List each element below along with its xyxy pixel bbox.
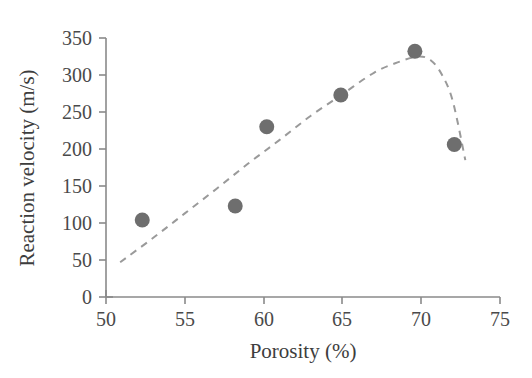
scatter-plot: 0 50 100 150 200 250 300 350 50 55 60 65…: [0, 0, 532, 378]
y-tick-label-250: 250: [62, 101, 92, 123]
data-point: [447, 137, 462, 152]
y-tick-label-150: 150: [62, 175, 92, 197]
x-tick-label-55: 55: [175, 308, 195, 330]
x-tick-label-60: 60: [254, 308, 274, 330]
y-axis-tick-labels: 0 50 100 150 200 250 300 350: [62, 27, 92, 308]
chart-figure: 0 50 100 150 200 250 300 350 50 55 60 65…: [0, 0, 532, 378]
x-tick-label-70: 70: [411, 308, 431, 330]
fitted-trend-curve: [120, 56, 465, 262]
data-point: [135, 213, 150, 228]
data-point: [333, 87, 348, 102]
y-tick-label-0: 0: [82, 286, 92, 308]
y-tick-label-300: 300: [62, 64, 92, 86]
x-tick-label-50: 50: [96, 308, 116, 330]
x-axis-title: Porosity (%): [250, 339, 357, 363]
y-tick-label-350: 350: [62, 27, 92, 49]
y-tick-label-50: 50: [72, 249, 92, 271]
data-point: [407, 44, 422, 59]
y-tick-label-100: 100: [62, 212, 92, 234]
x-axis-tick-labels: 50 55 60 65 70 75: [96, 308, 510, 330]
x-tick-label-65: 65: [332, 308, 352, 330]
y-tick-label-200: 200: [62, 138, 92, 160]
data-point-group: [135, 44, 462, 228]
y-axis-title: Reaction velocity (m/s): [15, 69, 39, 266]
data-point: [228, 198, 243, 213]
x-tick-label-75: 75: [490, 308, 510, 330]
data-point: [259, 119, 274, 134]
